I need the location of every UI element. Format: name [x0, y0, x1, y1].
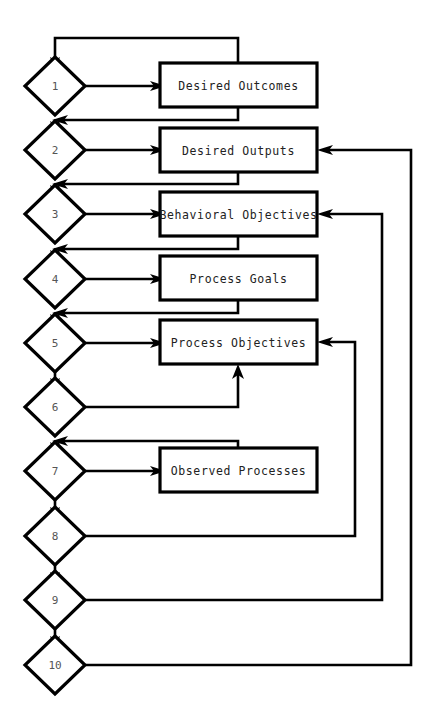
- edge-d5-to-b5: [85, 338, 166, 348]
- decision-node-5[interactable]: 5: [25, 314, 85, 372]
- decision-node-label: 1: [52, 80, 59, 93]
- process-box-desired-outputs[interactable]: Desired Outputs: [160, 128, 317, 172]
- flowchart-diagram: Desired Outcomes Desired Outputs Behavio…: [0, 0, 435, 710]
- decision-node-label: 5: [52, 337, 59, 350]
- process-box-process-goals[interactable]: Process Goals: [160, 256, 317, 300]
- decision-node-label: 9: [52, 594, 59, 607]
- edge-d7-to-b6: [85, 466, 166, 476]
- decision-node-label: 6: [52, 401, 59, 414]
- process-box-layer: Desired Outcomes Desired Outputs Behavio…: [160, 63, 318, 492]
- box-label: Process Goals: [190, 272, 288, 286]
- edge-b3-to-d4: [52, 236, 238, 254]
- box-label: Process Objectives: [171, 336, 306, 350]
- process-box-process-objectives[interactable]: Process Objectives: [160, 320, 317, 364]
- decision-node-10[interactable]: 10: [25, 636, 85, 694]
- edge-b6-to-d7: [52, 436, 238, 448]
- edge-b1-to-d2: [52, 107, 238, 125]
- edge-d2-to-b2: [85, 145, 166, 155]
- decision-node-9[interactable]: 9: [25, 571, 85, 629]
- decision-node-label: 8: [52, 530, 59, 543]
- decision-node-6[interactable]: 6: [25, 378, 85, 436]
- decision-node-2[interactable]: 2: [25, 121, 85, 179]
- process-box-observed-processes[interactable]: Observed Processes: [160, 448, 317, 492]
- box-label: Behavioral Objectives: [160, 208, 318, 222]
- decision-node-4[interactable]: 4: [25, 250, 85, 308]
- edge-d1-to-b1: [85, 81, 166, 91]
- edge-d6-to-b5: [85, 364, 244, 407]
- decision-node-8[interactable]: 8: [25, 507, 85, 565]
- edge-d3-to-b3: [85, 209, 166, 219]
- decision-node-label: 7: [52, 465, 59, 478]
- decision-node-3[interactable]: 3: [25, 185, 85, 243]
- box-label: Desired Outputs: [182, 144, 295, 158]
- edge-b2-to-d3: [52, 172, 238, 189]
- decision-node-label: 10: [48, 659, 61, 672]
- decision-node-7[interactable]: 7: [25, 442, 85, 500]
- process-box-behavioral-objectives[interactable]: Behavioral Objectives: [160, 192, 318, 236]
- process-box-desired-outcomes[interactable]: Desired Outcomes: [160, 63, 317, 107]
- box-label: Observed Processes: [171, 464, 306, 478]
- flowchart-canvas: Desired Outcomes Desired Outputs Behavio…: [0, 0, 435, 710]
- decision-node-label: 4: [52, 273, 59, 286]
- box-label: Desired Outcomes: [178, 79, 298, 93]
- decision-node-1[interactable]: 1: [25, 57, 85, 115]
- decision-node-label: 2: [52, 144, 59, 157]
- edge-d8-to-b5: [85, 337, 355, 536]
- decision-node-label: 3: [52, 208, 59, 221]
- edge-d4-to-b4: [85, 274, 166, 284]
- edge-b4-to-d5: [52, 300, 238, 318]
